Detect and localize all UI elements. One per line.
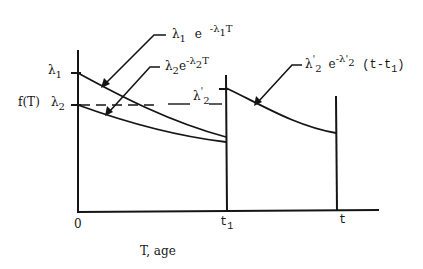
curve-lambda2-prime-label: λ'2 e-λ'2 (t-t1) [305,58,404,71]
leader-line-lambda2-prime [258,65,302,102]
curve-lambda2-prime [226,88,336,133]
t-tick-label: t [339,214,346,226]
arrowhead-lambda2 [105,106,113,116]
t-vertical-line [336,97,337,210]
lambda1-tick-label: λ1 [48,64,62,76]
origin-label: 0 [74,218,82,230]
lambda2-prime-level-label: λ'2 [193,90,210,102]
leader-line-lambda1 [105,35,166,84]
t1-vertical-line [226,76,227,211]
y-axis-label: f(T) [18,96,40,108]
diagram-canvas [0,0,423,269]
x-axis-label: T, age [140,245,176,257]
curve-lambda1-label: λ1 e -λ1T [172,28,233,40]
lambda2-tick-label: λ2 [51,96,65,108]
t1-tick-label: t1 [220,216,233,228]
curve-lambda2-label: λ2e-λ2T [165,60,209,72]
